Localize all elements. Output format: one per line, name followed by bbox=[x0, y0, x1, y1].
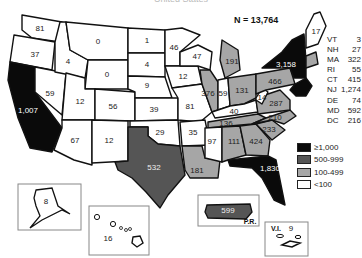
state-count: 27 bbox=[352, 45, 361, 55]
legend-swatch bbox=[297, 180, 311, 189]
northeast-row: CT415 bbox=[327, 75, 361, 85]
state-value-la: 181 bbox=[190, 166, 204, 175]
state-value-wy: 0 bbox=[105, 70, 110, 79]
state-value-il: 376 bbox=[201, 89, 215, 98]
state-ma_ct_ri bbox=[306, 52, 318, 68]
legend-item: <100 bbox=[297, 180, 343, 191]
state-value-az: 67 bbox=[71, 136, 80, 145]
puerto-rico-caption: P.R. bbox=[244, 218, 257, 225]
state-value-tx: 532 bbox=[147, 163, 161, 172]
state-value-va: 287 bbox=[269, 99, 283, 108]
state-abbrev: VT bbox=[327, 35, 337, 45]
state-value-wa: 81 bbox=[36, 24, 45, 33]
state-value-nm: 12 bbox=[105, 136, 114, 145]
northeast-row: RI55 bbox=[327, 65, 361, 75]
state-value-ca: 1,007 bbox=[18, 106, 39, 115]
state-count: 3 bbox=[357, 35, 361, 45]
state-value-mi: 191 bbox=[225, 57, 239, 66]
legend-swatch bbox=[297, 168, 311, 177]
state-abbrev: NH bbox=[327, 45, 339, 55]
states-layer bbox=[8, 12, 326, 208]
state-count: 592 bbox=[348, 106, 361, 116]
legend-label: ≥1,000 bbox=[314, 143, 338, 152]
state-abbrev: MD bbox=[327, 106, 339, 116]
state-value-nv: 59 bbox=[46, 89, 55, 98]
state-value-ut: 12 bbox=[76, 97, 85, 106]
state-value-ky: 40 bbox=[230, 107, 239, 116]
state-count: 322 bbox=[348, 55, 361, 65]
state-value-mt: 0 bbox=[96, 37, 101, 46]
state-value-nd: 1 bbox=[145, 36, 150, 45]
alaska-inset: 8 bbox=[18, 184, 81, 230]
northeast-row: MD592 bbox=[327, 106, 361, 116]
legend-item: 100-499 bbox=[297, 167, 343, 178]
state-value-nc: 210 bbox=[268, 113, 282, 122]
state-abbrev: DE bbox=[327, 96, 338, 106]
us-map: 81371,0075940012566712149392953246128135… bbox=[0, 0, 362, 258]
state-abbrev: MA bbox=[327, 55, 339, 65]
state-value-ne: 9 bbox=[145, 81, 150, 90]
state-count: 216 bbox=[348, 116, 361, 126]
legend-label: <100 bbox=[314, 180, 332, 189]
state-count: 1,274 bbox=[341, 85, 361, 95]
state-value-in: 59 bbox=[219, 89, 228, 98]
state-value-ok: 29 bbox=[156, 128, 165, 137]
state-value-mo: 81 bbox=[186, 102, 195, 111]
northeast-values-table: VT3NH27MA322RI55CT415NJ1,274DE74MD592DC2… bbox=[327, 35, 361, 126]
puerto-rico-value: 599 bbox=[221, 206, 235, 215]
state-value-ks: 39 bbox=[150, 105, 159, 114]
state-value-co: 56 bbox=[109, 102, 118, 111]
state-count: 415 bbox=[348, 75, 361, 85]
state-value-wv: 14 bbox=[258, 93, 267, 102]
virgin-islands-inset: V.I. 9 bbox=[265, 222, 308, 256]
northeast-row: NJ1,274 bbox=[327, 85, 361, 95]
alaska-value: 8 bbox=[44, 197, 49, 206]
state-value-mn: 46 bbox=[170, 43, 179, 52]
state-value-ms: 97 bbox=[208, 137, 217, 146]
state-value-sd: 4 bbox=[145, 60, 150, 69]
state-abbrev: NJ bbox=[327, 85, 337, 95]
state-value-sc: 233 bbox=[262, 125, 276, 134]
state-value-al: 111 bbox=[228, 137, 241, 146]
state-count: 74 bbox=[352, 96, 361, 106]
state-abbrev: DC bbox=[327, 116, 339, 126]
state-abbrev: RI bbox=[327, 65, 335, 75]
virgin-islands-value: 9 bbox=[289, 224, 294, 233]
puerto-rico-inset: 599 P.R. bbox=[198, 195, 259, 226]
virgin-islands-caption: V.I. bbox=[271, 225, 281, 232]
state-value-ia: 12 bbox=[179, 72, 188, 81]
state-value-fl: 1,830 bbox=[260, 164, 281, 173]
state-value-pa: 466 bbox=[268, 77, 282, 86]
legend-label: 100-499 bbox=[314, 168, 343, 177]
northeast-row: DC216 bbox=[327, 116, 361, 126]
legend-swatch bbox=[297, 143, 311, 152]
hawaii-value: 16 bbox=[104, 234, 113, 243]
state-value-or: 37 bbox=[31, 50, 40, 59]
state-value-tn: 136 bbox=[219, 119, 233, 128]
state-value-oh: 131 bbox=[235, 86, 249, 95]
northeast-row: DE74 bbox=[327, 96, 361, 106]
legend-label: 500-999 bbox=[314, 155, 343, 164]
map-legend: ≥1,000500-999100-499<100 bbox=[297, 142, 343, 192]
state-abbrev: CT bbox=[327, 75, 338, 85]
state-value-wi: 47 bbox=[193, 52, 202, 61]
northeast-row: VT3 bbox=[327, 35, 361, 45]
hawaii-inset: 16 bbox=[89, 206, 149, 255]
state-value-ga: 424 bbox=[249, 137, 263, 146]
legend-swatch bbox=[297, 155, 311, 164]
state-ne bbox=[128, 76, 172, 98]
state-value-id: 4 bbox=[66, 57, 71, 66]
state-value-me: 17 bbox=[312, 27, 321, 36]
legend-item: ≥1,000 bbox=[297, 142, 343, 153]
state-count: 55 bbox=[352, 65, 361, 75]
northeast-row: NH27 bbox=[327, 45, 361, 55]
northeast-row: MA322 bbox=[327, 55, 361, 65]
state-value-ny: 3,158 bbox=[276, 60, 297, 69]
state-value-ar: 35 bbox=[189, 128, 198, 137]
legend-item: 500-999 bbox=[297, 155, 343, 166]
